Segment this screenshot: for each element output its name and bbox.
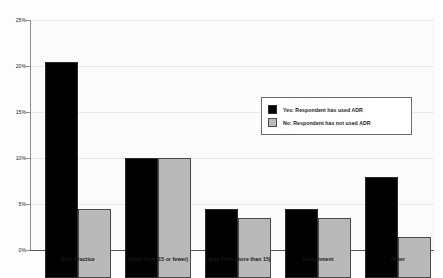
x-tick-label-other: Other (365, 256, 431, 262)
bar-government-yes (285, 209, 318, 278)
bar-other-yes (365, 177, 398, 278)
x-tick-label-solo-practice: Solo Practice (45, 256, 111, 262)
x-tick-label-large-firm: Large Firm (more than 15) (196, 256, 280, 262)
x-tick-label-small-firm: Small Firm (15 or fewer) (118, 256, 198, 262)
y-tick-mark-15 (26, 112, 30, 113)
legend-swatch-no-icon (268, 118, 277, 127)
y-tick-label-10: 10% (2, 155, 26, 161)
y-tick-mark-5 (26, 204, 30, 205)
legend-label-yes: Yes: Respondent has used ADR (283, 107, 363, 113)
legend-item-no: No: Respondent has not used ADR (268, 116, 405, 129)
bar-solo-practice-yes (45, 62, 78, 278)
legend-item-yes: Yes: Respondent has used ADR (268, 103, 405, 116)
x-tick-label-government: Government (285, 256, 351, 262)
y-tick-label-25: 25% (2, 17, 26, 23)
gridline-25 (30, 20, 434, 21)
y-tick-mark-0 (26, 250, 30, 251)
y-tick-mark-10 (26, 158, 30, 159)
legend-swatch-yes-icon (268, 105, 277, 114)
y-tick-label-20: 20% (2, 63, 26, 69)
bar-group-government (285, 48, 351, 278)
y-tick-label-15: 15% (2, 109, 26, 115)
bar-large-firm-yes (205, 209, 238, 278)
y-tick-mark-20 (26, 66, 30, 67)
bar-group-other (365, 48, 431, 278)
y-tick-mark-25 (26, 20, 30, 21)
bar-large-firm-no (238, 218, 271, 278)
bar-group-large-firm (205, 48, 271, 278)
bar-government-no (318, 218, 351, 278)
y-axis-line (30, 20, 31, 250)
bar-group-small-firm (125, 48, 191, 278)
bar-solo-practice-no (78, 209, 111, 278)
legend-label-no: No: Respondent has not used ADR (283, 120, 371, 126)
bar-chart: 25% 20% 15% 10% 5% 0% Solo Practice Smal… (0, 0, 443, 278)
y-tick-label-5: 5% (2, 201, 26, 207)
legend: Yes: Respondent has used ADR No: Respond… (261, 97, 412, 135)
bar-group-solo-practice (45, 48, 111, 278)
y-tick-label-0: 0% (2, 247, 26, 253)
y-axis-labels: 25% 20% 15% 10% 5% 0% (0, 0, 26, 278)
